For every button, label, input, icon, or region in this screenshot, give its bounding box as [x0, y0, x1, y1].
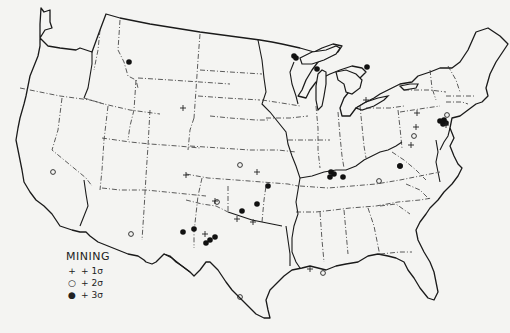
- chesapeake-bay: [436, 140, 440, 182]
- legend-item-1sigma: + + 1σ: [66, 265, 110, 277]
- open-circle-marker-icon: [129, 232, 134, 237]
- wisconsin-border-river: [290, 62, 298, 104]
- open-circle-marker-icon: [445, 113, 450, 118]
- texas-east-border: [286, 226, 290, 266]
- lake-ontario: [400, 84, 418, 90]
- plus-marker-icon: [202, 231, 208, 237]
- legend-item-2sigma: ○ + 2σ: [66, 277, 110, 289]
- lake-michigan: [316, 70, 326, 110]
- plus-marker-icon: [183, 172, 189, 178]
- state-borders: [20, 20, 474, 262]
- open-circle-marker-icon: [321, 271, 326, 276]
- filled-circle-marker-icon: [293, 55, 299, 61]
- legend-item-3sigma: ● + 3σ: [66, 289, 110, 301]
- filled-circle-marker-icon: [212, 234, 218, 240]
- filled-circle-marker-icon: [440, 121, 446, 127]
- open-circle-marker-icon: [377, 179, 382, 184]
- colorado-river: [80, 180, 88, 226]
- filled-circle-marker-icon: [254, 201, 260, 207]
- plus-marker-icon: [413, 124, 419, 130]
- plus-marker-icon: [254, 169, 260, 175]
- filled-circle-marker-icon: [314, 66, 320, 72]
- open-circle-marker-icon: [51, 170, 56, 175]
- filled-circle-marker-icon: [364, 64, 370, 70]
- plus-marker-icon: [234, 216, 240, 222]
- filled-circle-marker-icon: [327, 174, 333, 180]
- filled-circle-marker-icon: [203, 240, 209, 246]
- filled-circle-icon: ●: [66, 289, 78, 301]
- delaware-river: [440, 128, 450, 150]
- filled-circle-marker-icon: [397, 163, 403, 169]
- legend: MINING + + 1σ ○ + 2σ ● + 3σ: [66, 250, 110, 301]
- plus-icon: +: [66, 265, 78, 277]
- lake-huron: [336, 70, 362, 94]
- filled-circle-marker-icon: [180, 229, 186, 235]
- snake-river: [84, 52, 92, 98]
- legend-label: + 3σ: [81, 289, 103, 301]
- open-circle-marker-icon: [412, 134, 417, 139]
- legend-label: + 1σ: [81, 265, 103, 277]
- ohio-river: [300, 142, 402, 178]
- legend-label: + 2σ: [81, 277, 103, 289]
- data-markers: [51, 53, 450, 299]
- open-circle-marker-icon: [238, 163, 243, 168]
- plus-marker-icon: [414, 110, 420, 116]
- filled-circle-marker-icon: [340, 174, 346, 180]
- open-circle-icon: ○: [66, 277, 78, 289]
- filled-circle-marker-icon: [239, 208, 245, 214]
- filled-circle-marker-icon: [191, 226, 197, 232]
- filled-circle-marker-icon: [265, 183, 271, 189]
- plus-marker-icon: [180, 105, 186, 111]
- plus-marker-icon: [408, 142, 414, 148]
- legend-title: MINING: [66, 250, 110, 263]
- mississippi-river: [258, 40, 300, 268]
- filled-circle-marker-icon: [126, 59, 132, 65]
